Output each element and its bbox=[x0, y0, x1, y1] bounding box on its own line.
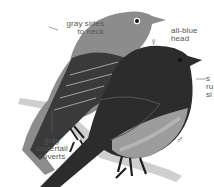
label-gray-undertail-coverts: gray undertail coverts bbox=[30, 137, 74, 161]
label-right-truncated: s ru si bbox=[206, 75, 214, 99]
bird-illustration-plate: gray sides to neck all-blue head gray un… bbox=[0, 0, 214, 187]
male-symbol-icon: ♂ bbox=[176, 135, 184, 145]
label-all-blue-head: all-blue head bbox=[171, 27, 209, 43]
female-symbol-icon: ♀ bbox=[150, 37, 158, 47]
label-gray-sides-to-neck: gray sides to neck bbox=[56, 20, 104, 36]
